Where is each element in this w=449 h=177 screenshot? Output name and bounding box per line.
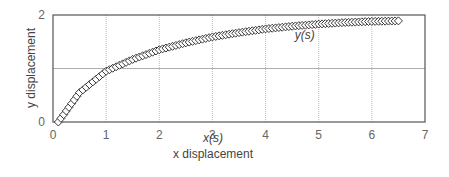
x-tick-label: 0: [50, 128, 57, 142]
series-annotation: y(s): [294, 28, 315, 42]
x-tick-label: 5: [315, 128, 322, 142]
y-axis-ticks: 02: [38, 8, 45, 129]
y-tick-label: 0: [38, 115, 45, 129]
chart: 01234567 02 y(s) x(s) x displacement y d…: [0, 0, 449, 177]
x-tick-label: 7: [422, 128, 429, 142]
x-tick-label: 2: [156, 128, 163, 142]
x-tick-label: 1: [103, 128, 110, 142]
y-axis-label: y displacement: [24, 27, 38, 108]
x-tick-label: 6: [369, 128, 376, 142]
x-axis-ticks: 01234567: [50, 128, 429, 142]
x-tick-label: 4: [262, 128, 269, 142]
y-tick-label: 2: [38, 8, 45, 22]
x-axis-label: x displacement: [173, 147, 254, 161]
x-axis-sub-label: x(s): [202, 131, 223, 145]
